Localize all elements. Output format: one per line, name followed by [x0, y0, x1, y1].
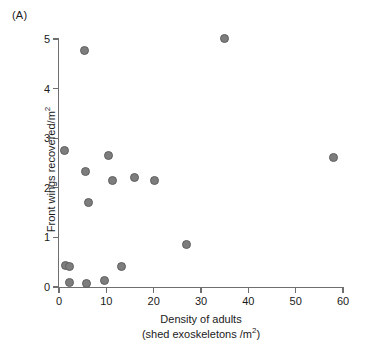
panel-label: (A) [12, 9, 27, 22]
plot-data-area [59, 39, 343, 287]
x-tick-label: 10 [91, 295, 121, 307]
y-tick-mark [53, 286, 58, 287]
x-tick-mark [342, 288, 343, 293]
y-tick-label: 0 [26, 281, 50, 293]
data-point [108, 176, 117, 185]
data-point [329, 153, 338, 162]
x-tick-mark [58, 288, 59, 293]
x-axis-title-line2-prefix: (shed exoskeletons /m [142, 328, 252, 340]
data-point [80, 46, 89, 55]
data-point [220, 34, 229, 43]
x-tick-mark [295, 288, 296, 293]
x-axis-title: Density of adults (shed exoskeletons /m2… [59, 312, 343, 342]
y-axis-title-text: Front wings recovered/m [45, 111, 57, 232]
data-point [65, 262, 74, 271]
y-tick-label: 5 [26, 33, 50, 45]
x-axis-title-line2-suffix: ) [256, 328, 260, 340]
data-point [117, 262, 126, 271]
x-tick-label: 60 [328, 295, 358, 307]
x-tick-mark [248, 288, 249, 293]
y-axis-title: Front wings recovered/m2 [45, 80, 58, 260]
x-tick-label: 50 [281, 295, 311, 307]
x-tick-label: 40 [233, 295, 263, 307]
scatter-plot-figure: (A) 012345 0102030405060 Front wings rec… [0, 0, 373, 354]
x-axis-title-line1: Density of adults [59, 312, 343, 327]
x-tick-mark [200, 288, 201, 293]
data-point [81, 167, 90, 176]
x-tick-label: 30 [186, 295, 216, 307]
y-axis-title-superscript: 2 [43, 107, 52, 111]
x-tick-mark [106, 288, 107, 293]
y-tick-mark [53, 38, 58, 39]
x-tick-mark [153, 288, 154, 293]
data-point [84, 198, 93, 207]
data-point [104, 151, 113, 160]
x-tick-label: 0 [44, 295, 74, 307]
x-axis-title-line2: (shed exoskeletons /m2) [59, 327, 343, 342]
data-point [100, 276, 109, 285]
x-tick-label: 20 [139, 295, 169, 307]
